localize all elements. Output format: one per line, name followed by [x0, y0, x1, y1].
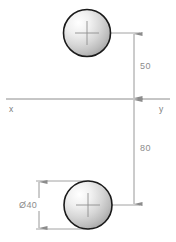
dimension-80: 80 [134, 100, 156, 204]
axis-label-y: y [159, 104, 164, 114]
drawing-svg: x y 50 80 Ø40 [0, 0, 176, 242]
lower-circle [64, 181, 112, 229]
xy-axis: x y [6, 99, 170, 114]
engineering-drawing-canvas: x y 50 80 Ø40 [0, 0, 176, 242]
upper-circle [64, 10, 111, 57]
dimension-50: 50 [134, 34, 156, 98]
dimension-value-50: 50 [140, 61, 151, 71]
dimension-value-80: 80 [140, 143, 151, 153]
dimension-diameter-40: Ø40 [18, 182, 43, 228]
axis-label-x: x [9, 104, 14, 114]
dimension-value-diameter: Ø40 [19, 200, 37, 210]
